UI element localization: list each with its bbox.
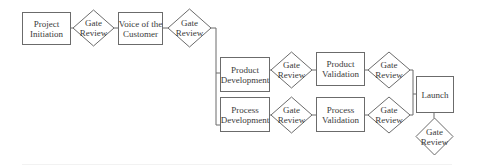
divider bbox=[22, 164, 452, 165]
voice-of-customer-box bbox=[119, 13, 163, 45]
flowchart-svg bbox=[0, 0, 477, 168]
gate-review-diamond-2 bbox=[168, 9, 211, 47]
connector-merge-trunk bbox=[410, 70, 413, 115]
launch-box bbox=[417, 77, 454, 113]
project-initiation-box bbox=[23, 13, 71, 45]
gate-review-diamond-6 bbox=[368, 97, 410, 133]
process-development-box bbox=[221, 98, 270, 132]
process-validation-box bbox=[317, 98, 365, 132]
gate-review-diamond-4 bbox=[368, 52, 410, 88]
gate-review-diamond-5 bbox=[271, 97, 312, 133]
product-validation-box bbox=[317, 53, 365, 86]
shapes bbox=[23, 9, 454, 155]
gate-review-diamond-3 bbox=[271, 52, 312, 88]
gate-review-diamond-7 bbox=[416, 118, 453, 155]
gate-review-diamond-1 bbox=[73, 10, 114, 46]
flowchart-canvas: Project Initiation Gate Review Voice of … bbox=[0, 0, 477, 168]
connector-gate2-trunk bbox=[211, 28, 216, 125]
product-development-box bbox=[221, 58, 270, 92]
